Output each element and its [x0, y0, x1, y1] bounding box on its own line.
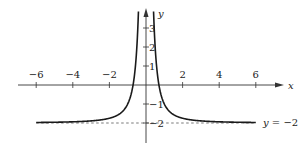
function-graph: −6−4−2246321−1−2 x y y = −2 [0, 0, 305, 150]
asymptote-label: y = −2 [262, 117, 298, 128]
y-tick-label: −1 [149, 99, 164, 110]
x-tick-label: 6 [253, 69, 259, 80]
x-tick-label: −6 [29, 69, 44, 80]
y-axis-label: y [157, 8, 164, 19]
curve-right-branch [154, 11, 256, 122]
y-tick-label: −2 [149, 118, 164, 129]
x-axis-label: x [288, 80, 294, 91]
y-tick-label: 1 [149, 61, 155, 72]
curve-left-branch [36, 11, 138, 122]
x-tick-label: 4 [216, 69, 222, 80]
x-tick-label: 2 [179, 69, 185, 80]
x-tick-label: −4 [65, 69, 80, 80]
x-tick-label: −2 [102, 69, 117, 80]
ticks: −6−4−2246321−1−2 [29, 23, 259, 129]
